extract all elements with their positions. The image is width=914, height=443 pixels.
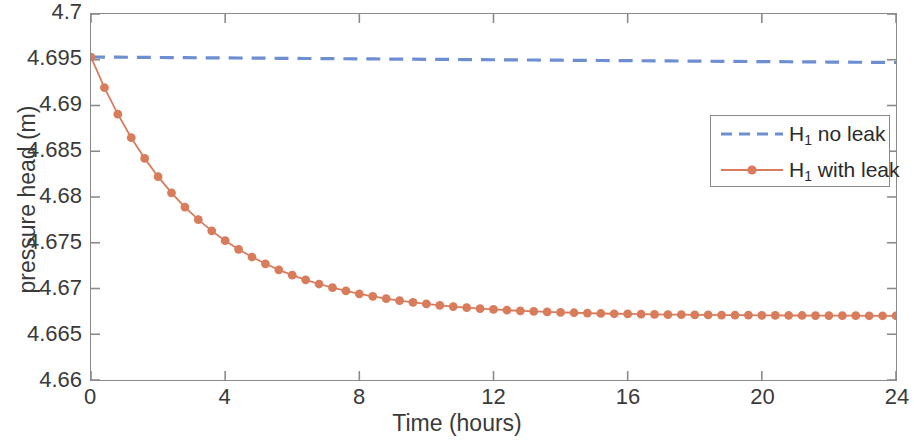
data-point-marker <box>435 301 444 310</box>
data-point-marker <box>717 311 726 320</box>
legend-label-no-leak: H1 no leak <box>789 123 886 144</box>
y-axis-title: pressure head (m) <box>14 30 41 370</box>
data-point-marker <box>838 311 847 320</box>
data-point-marker <box>570 308 579 317</box>
y-tick-label: 4.69 <box>39 93 82 115</box>
data-point-marker <box>784 311 793 320</box>
x-tick-label: 24 <box>885 386 909 408</box>
data-point-marker <box>382 294 391 303</box>
data-point-marker <box>489 305 498 314</box>
data-point-marker <box>851 311 860 320</box>
data-point-marker <box>355 289 364 298</box>
x-tick-label: 12 <box>481 386 505 408</box>
data-point-marker <box>516 306 525 315</box>
x-tick-label: 20 <box>750 386 774 408</box>
data-point-marker <box>315 280 324 289</box>
data-point-marker <box>529 307 538 316</box>
data-point-marker <box>181 203 190 212</box>
data-point-marker <box>476 304 485 313</box>
data-point-marker <box>596 309 605 318</box>
y-tick-label: 4.67 <box>39 277 82 299</box>
legend-item-no-leak: H1 no leak <box>711 116 891 152</box>
figure-container: 4.664.6654.674.6754.684.6854.694.6954.7 … <box>0 0 914 443</box>
data-point-marker <box>637 310 646 319</box>
y-tick-label: 4.68 <box>39 185 82 207</box>
data-point-marker <box>731 311 740 320</box>
data-point-marker <box>664 310 673 319</box>
data-point-marker <box>449 302 458 311</box>
data-point-marker <box>650 310 659 319</box>
data-point-marker <box>798 311 807 320</box>
data-point-marker <box>154 172 163 181</box>
data-point-marker <box>207 226 216 235</box>
data-point-marker <box>892 311 896 320</box>
legend-swatch-dashed-line <box>719 116 785 152</box>
data-point-marker <box>825 311 834 320</box>
data-point-marker <box>368 292 377 301</box>
data-point-marker <box>221 236 230 245</box>
series-line-0 <box>91 57 896 62</box>
data-point-marker <box>771 311 780 320</box>
data-point-marker <box>583 309 592 318</box>
plot-area <box>90 13 897 381</box>
x-tick-label: 8 <box>353 386 365 408</box>
data-point-marker <box>100 83 109 92</box>
data-point-marker <box>328 283 337 292</box>
data-point-marker <box>194 215 203 224</box>
data-point-marker <box>610 309 619 318</box>
data-point-marker <box>140 154 149 163</box>
data-point-marker <box>248 253 257 262</box>
data-point-marker <box>395 296 404 305</box>
data-point-marker <box>503 306 512 315</box>
y-axis-tick-labels: 4.664.6654.674.6754.684.6854.694.6954.7 <box>0 0 82 443</box>
data-point-marker <box>543 308 552 317</box>
x-tick-label: 16 <box>616 386 640 408</box>
data-point-marker <box>288 271 297 280</box>
chart-legend: H1 no leak H1 with leak <box>710 115 890 187</box>
y-tick-label: 4.7 <box>51 1 82 23</box>
chart-svg <box>91 14 896 380</box>
data-point-marker <box>167 188 176 197</box>
data-point-marker <box>409 298 418 307</box>
legend-swatch-solid-line-marker <box>719 152 785 188</box>
data-point-marker <box>811 311 820 320</box>
data-point-marker <box>113 110 122 119</box>
data-point-marker <box>677 310 686 319</box>
legend-label-with-leak: H1 with leak <box>789 159 900 180</box>
data-point-marker <box>690 310 699 319</box>
x-axis-title: Time (hours) <box>0 410 914 437</box>
data-point-marker <box>301 275 310 284</box>
data-point-marker <box>757 311 766 320</box>
data-point-marker <box>234 245 243 254</box>
data-point-marker <box>422 300 431 309</box>
data-point-marker <box>261 259 270 268</box>
data-point-marker <box>623 310 632 319</box>
data-point-marker <box>704 311 713 320</box>
data-point-marker <box>462 303 471 312</box>
data-point-marker <box>878 311 887 320</box>
x-tick-label: 0 <box>84 386 96 408</box>
data-point-marker <box>865 311 874 320</box>
legend-item-with-leak: H1 with leak <box>711 152 891 188</box>
data-point-marker <box>342 287 351 296</box>
data-point-marker <box>744 311 753 320</box>
data-point-marker <box>556 308 565 317</box>
data-point-marker <box>127 133 136 142</box>
x-tick-label: 4 <box>218 386 230 408</box>
data-point-marker <box>274 265 283 274</box>
